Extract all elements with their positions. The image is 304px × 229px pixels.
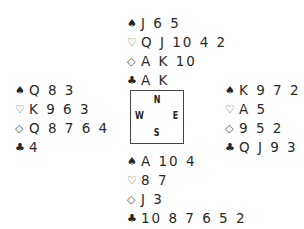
east-hearts-row: ♡A 5 [225, 100, 301, 119]
compass-east-label: E [173, 110, 178, 121]
north-hearts-row: ♡Q J 10 4 2 [127, 33, 227, 52]
diamond-icon: ◇ [127, 52, 141, 71]
south-hand: ♠A 10 4 ♡8 7 ◇J 3 ♣10 8 7 6 5 2 [127, 152, 247, 228]
south-diamonds: J 3 [141, 190, 164, 209]
club-icon: ♣ [127, 71, 141, 90]
east-spades-row: ♠K 9 7 2 [225, 81, 301, 100]
north-hand: ♠J 6 5 ♡Q J 10 4 2 ◇A K 10 ♣A K [127, 14, 227, 90]
compass-north-label: N [154, 94, 161, 105]
east-spades: K 9 7 2 [239, 81, 301, 100]
north-diamonds-row: ◇A K 10 [127, 52, 227, 71]
south-spades-row: ♠A 10 4 [127, 152, 247, 171]
heart-icon: ♡ [225, 100, 239, 119]
spade-icon: ♠ [127, 152, 141, 171]
east-hearts: A 5 [239, 100, 267, 119]
west-spades: Q 8 3 [29, 81, 75, 100]
club-icon: ♣ [15, 138, 29, 157]
north-spades: J 6 5 [141, 14, 181, 33]
compass-south-label: S [154, 127, 160, 138]
spade-icon: ♠ [15, 81, 29, 100]
south-clubs-row: ♣10 8 7 6 5 2 [127, 209, 247, 228]
east-diamonds: 9 5 2 [239, 119, 283, 138]
compass-box: N W E S [130, 90, 184, 144]
west-hand: ♠Q 8 3 ♡K 9 6 3 ◇Q 8 7 6 4 ♣4 [15, 81, 109, 157]
heart-icon: ♡ [127, 33, 141, 52]
south-diamonds-row: ◇J 3 [127, 190, 247, 209]
diamond-icon: ◇ [225, 119, 239, 138]
south-hearts-row: ♡8 7 [127, 171, 247, 190]
west-clubs: 4 [29, 138, 40, 157]
south-spades: A 10 4 [141, 152, 197, 171]
east-diamonds-row: ◇9 5 2 [225, 119, 301, 138]
diamond-icon: ◇ [127, 190, 141, 209]
west-hearts: K 9 6 3 [29, 100, 91, 119]
west-clubs-row: ♣4 [15, 138, 109, 157]
compass-west-label: W [135, 110, 144, 121]
south-clubs: 10 8 7 6 5 2 [141, 209, 247, 228]
south-hearts: 8 7 [141, 171, 168, 190]
north-clubs-row: ♣A K [127, 71, 227, 90]
north-diamonds: A K 10 [141, 52, 197, 71]
north-clubs: A K [141, 71, 169, 90]
east-hand: ♠K 9 7 2 ♡A 5 ◇9 5 2 ♣Q J 9 3 [225, 81, 301, 157]
west-spades-row: ♠Q 8 3 [15, 81, 109, 100]
diamond-icon: ◇ [15, 119, 29, 138]
west-diamonds: Q 8 7 6 4 [29, 119, 109, 138]
spade-icon: ♠ [225, 81, 239, 100]
west-hearts-row: ♡K 9 6 3 [15, 100, 109, 119]
club-icon: ♣ [127, 209, 141, 228]
heart-icon: ♡ [127, 171, 141, 190]
heart-icon: ♡ [15, 100, 29, 119]
east-clubs: Q J 9 3 [239, 138, 298, 157]
spade-icon: ♠ [127, 14, 141, 33]
north-hearts: Q J 10 4 2 [141, 33, 227, 52]
west-diamonds-row: ◇Q 8 7 6 4 [15, 119, 109, 138]
north-spades-row: ♠J 6 5 [127, 14, 227, 33]
